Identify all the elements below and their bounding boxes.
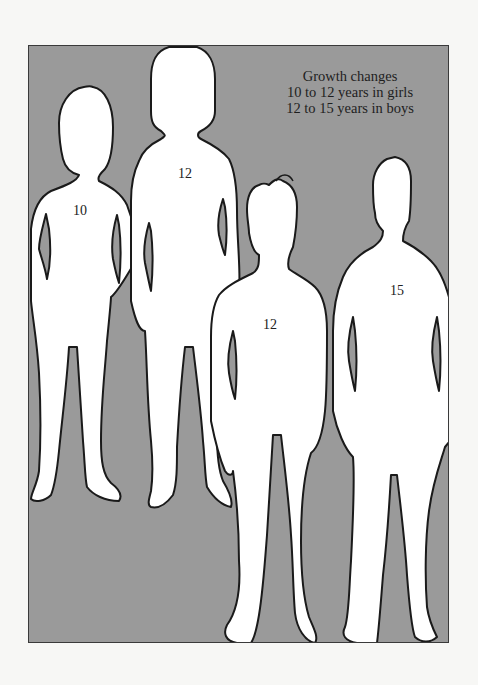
girl-10-silhouette bbox=[31, 86, 137, 501]
girl-12-age-label: 12 bbox=[178, 166, 192, 182]
figure-caption: Growth changes 10 to 12 years in girls 1… bbox=[250, 68, 450, 116]
caption-title: Growth changes bbox=[250, 68, 450, 84]
illustration-panel bbox=[28, 45, 449, 643]
caption-girls-line: 10 to 12 years in girls bbox=[250, 84, 450, 100]
boy-15-silhouette bbox=[333, 157, 449, 643]
girl-10-age-label: 10 bbox=[73, 203, 87, 219]
silhouettes-svg bbox=[29, 46, 449, 643]
boy-12-age-label: 12 bbox=[263, 317, 277, 333]
boy-15-age-label: 15 bbox=[390, 283, 404, 299]
caption-boys-line: 12 to 15 years in boys bbox=[250, 100, 450, 116]
